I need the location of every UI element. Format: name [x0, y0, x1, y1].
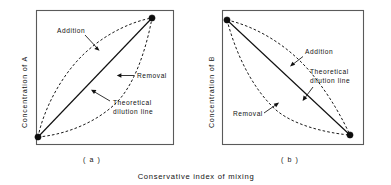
- panel-b-caption: ( b ): [281, 156, 299, 164]
- panel-b-endpoint-marker-low: [347, 132, 353, 138]
- panel-a-endpoint-marker-high: [149, 15, 155, 21]
- panel-b: Addition Theoretical dilution line Remov…: [208, 11, 364, 165]
- panel-b-dilution-label-line2: dilution line: [310, 77, 350, 84]
- panel-a-y-axis-label: Concentration of A: [21, 56, 29, 128]
- panel-b-dilution-label-line1: Theoretical: [310, 68, 349, 75]
- figure-svg: Addition Removal Theoretical dilution li…: [0, 0, 391, 185]
- figure-container: Addition Removal Theoretical dilution li…: [0, 0, 391, 185]
- panel-a-removal-label: Removal: [137, 72, 167, 79]
- panel-a-dilution-label-line2: dilution line: [113, 108, 153, 115]
- panel-a-endpoint-marker-low: [35, 134, 41, 140]
- panel-a-addition-label: Addition: [57, 27, 85, 34]
- panel-b-endpoint-marker-high: [224, 17, 230, 23]
- panel-b-addition-label: Addition: [305, 48, 333, 55]
- panel-a-caption: ( a ): [83, 156, 101, 164]
- panel-a: Addition Removal Theoretical dilution li…: [21, 11, 174, 165]
- panel-b-y-axis-label: Concentration of B: [208, 56, 216, 128]
- panel-a-dilution-label-line1: Theoretical: [113, 99, 152, 106]
- shared-x-axis-label: Conservative index of mixing: [138, 172, 255, 181]
- panel-b-removal-label: Removal: [233, 110, 263, 117]
